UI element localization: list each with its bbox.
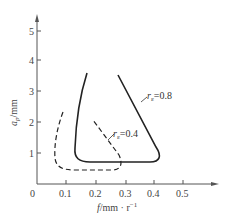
x-axis-arrow-icon (211, 182, 219, 186)
x-tick-label-0.2: 0.2 (89, 188, 102, 199)
annotation-r-0.8: rε=0.8 (147, 90, 172, 103)
y-axis-label: ap/mm (8, 99, 21, 126)
chart: 1 2 3 4 5 0 0.1 0.2 0.3 0.4 0.5 f/mm · r… (0, 0, 233, 219)
y-tick-label-4: 4 (29, 55, 34, 66)
y-ticks (37, 31, 41, 153)
x-axis-label: f/mm · r−1 (97, 201, 138, 213)
y-tick-label-1: 1 (29, 148, 34, 159)
origin-label: 0 (30, 188, 35, 199)
x-tick-label-0.1: 0.1 (59, 188, 72, 199)
x-tick-label-0.3: 0.3 (119, 188, 132, 199)
annotation-r-0.4: rε=0.4 (113, 128, 138, 141)
curve-r-0.8 (75, 73, 160, 162)
y-tick-label-3: 3 (29, 86, 34, 97)
y-tick-label-2: 2 (29, 117, 34, 128)
y-axis (35, 14, 39, 184)
x-axis (37, 182, 219, 186)
y-axis-arrow-icon (35, 14, 39, 22)
y-tick-label-5: 5 (29, 26, 34, 37)
x-tick-label-0.4: 0.4 (147, 188, 160, 199)
x-tick-label-0.5: 0.5 (176, 188, 189, 199)
x-ticks (66, 180, 183, 184)
